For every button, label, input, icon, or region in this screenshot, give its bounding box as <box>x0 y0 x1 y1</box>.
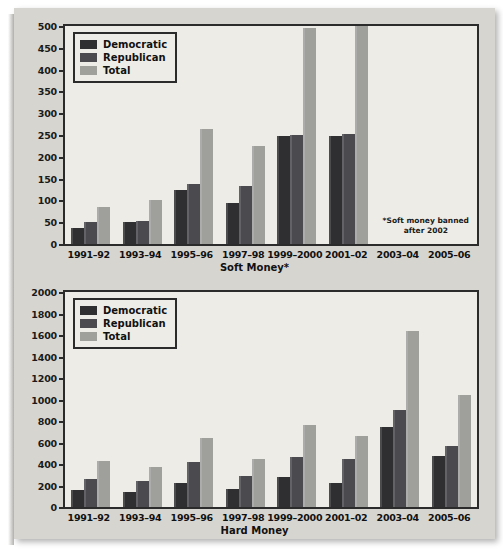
x-axis-tick-label: 2003–04 <box>377 512 419 523</box>
y-axis-tick-label: 300 <box>38 108 57 119</box>
bar-republican <box>136 221 149 244</box>
legend-label-total: Total <box>103 66 130 76</box>
bar-group <box>220 292 272 507</box>
y-axis-tick-label: 1400 <box>31 351 57 362</box>
y-axis-tick-label: 400 <box>38 64 57 75</box>
bar-democratic <box>329 136 342 244</box>
legend-row-republican: Republican <box>80 317 167 330</box>
x-axis-tick-label: 2005–06 <box>428 512 470 523</box>
x-axis-tick-label: 1995–96 <box>171 512 213 523</box>
legend-swatch-republican <box>80 53 97 62</box>
figure-paper: 050100150200250300350400450500 Democrati… <box>14 8 495 539</box>
legend-label-democratic: Democratic <box>103 306 167 316</box>
plot-area-hard-money: 0200400600800100012001400160018002000 De… <box>63 290 479 509</box>
chart-hard-money: 0200400600800100012001400160018002000 De… <box>14 276 495 539</box>
bar-total <box>355 26 368 244</box>
chart-soft-money: 050100150200250300350400450500 Democrati… <box>14 10 495 276</box>
bar-total <box>458 395 471 507</box>
y-axis-tick-label: 200 <box>38 480 57 491</box>
footnote-line-1: *Soft money banned <box>383 216 469 226</box>
bar-group <box>271 292 323 507</box>
x-axis-tick-label: 1997–98 <box>222 512 264 523</box>
bar-total <box>200 438 213 507</box>
legend-row-democratic: Democratic <box>80 304 167 317</box>
legend-swatch-republican <box>80 319 97 328</box>
bar-republican <box>84 222 97 244</box>
bar-democratic <box>226 203 239 244</box>
bar-total <box>406 331 419 507</box>
y-axis-tick-label: 50 <box>44 217 57 228</box>
legend-label-total: Total <box>103 332 130 342</box>
bar-total <box>97 461 110 507</box>
legend-hard-money: Democratic Republican Total <box>73 298 177 349</box>
legend-label-republican: Republican <box>103 53 166 63</box>
legend-soft-money: Democratic Republican Total <box>73 32 177 83</box>
bar-group <box>323 292 375 507</box>
bar-republican <box>239 186 252 244</box>
bar-republican <box>342 459 355 507</box>
axis-title-hard-money: Hard Money <box>14 525 495 536</box>
x-axis-tick-label: 2001–02 <box>325 512 367 523</box>
bar-democratic <box>277 477 290 507</box>
bar-republican <box>136 481 149 507</box>
bar-democratic <box>277 136 290 244</box>
bar-total <box>303 425 316 507</box>
bar-total <box>97 207 110 244</box>
figure-root: 050100150200250300350400450500 Democrati… <box>0 0 503 549</box>
y-axis-tick-label: 250 <box>38 130 57 141</box>
bar-democratic <box>226 489 239 507</box>
y-axis-tick-label: 1600 <box>31 330 57 341</box>
bar-democratic <box>174 190 187 244</box>
footnote-soft-money: *Soft money banned after 2002 <box>383 216 469 236</box>
bar-group <box>220 26 272 244</box>
bar-group <box>374 292 426 507</box>
legend-row-democratic: Democratic <box>80 38 167 51</box>
x-axis-tick-label: 1991–92 <box>68 512 110 523</box>
bar-total <box>149 200 162 244</box>
bar-republican <box>393 410 406 507</box>
legend-row-republican: Republican <box>80 51 167 64</box>
legend-swatch-total <box>80 66 97 75</box>
y-axis-tick-label: 0 <box>51 239 57 250</box>
x-axis-tick-label: 2005–06 <box>428 249 470 260</box>
y-axis-tick-label: 500 <box>38 21 57 32</box>
bar-republican <box>187 184 200 244</box>
bar-group <box>426 26 478 244</box>
bar-democratic <box>174 483 187 507</box>
bar-total <box>252 146 265 244</box>
y-axis-tick-label: 0 <box>51 502 57 513</box>
x-axis-tick-label: 2003–04 <box>377 249 419 260</box>
bar-total <box>252 459 265 507</box>
x-axis-tick-label: 2001–02 <box>325 249 367 260</box>
y-axis-tick-label: 100 <box>38 195 57 206</box>
y-axis-tick-label: 150 <box>38 173 57 184</box>
bar-group <box>374 26 426 244</box>
bar-group <box>426 292 478 507</box>
bar-republican <box>84 479 97 507</box>
x-axis-tick-label: 1999–2000 <box>267 249 322 260</box>
bar-democratic <box>123 222 136 244</box>
legend-row-total: Total <box>80 64 167 77</box>
bar-democratic <box>329 483 342 507</box>
bar-republican <box>187 462 200 507</box>
x-axis-tick-label: 1993–94 <box>119 512 161 523</box>
legend-swatch-democratic <box>80 306 97 315</box>
legend-label-democratic: Democratic <box>103 40 167 50</box>
bar-group <box>323 26 375 244</box>
x-axis-tick-label: 1999–2000 <box>267 512 322 523</box>
y-axis-tick-label: 800 <box>38 416 57 427</box>
bar-republican <box>342 134 355 244</box>
x-axis-tick-label: 1993–94 <box>119 249 161 260</box>
legend-label-republican: Republican <box>103 319 166 329</box>
axis-title-soft-money: Soft Money* <box>14 262 495 273</box>
y-axis-tick-label: 2000 <box>31 287 57 298</box>
y-axis-tick-label: 200 <box>38 151 57 162</box>
legend-swatch-total <box>80 332 97 341</box>
bar-democratic <box>432 456 445 507</box>
y-axis-tick-label: 450 <box>38 42 57 53</box>
bar-total <box>303 28 316 244</box>
bar-democratic <box>123 492 136 507</box>
y-axis-tick-label: 1800 <box>31 308 57 319</box>
x-axis-tick-label: 1997–98 <box>222 249 264 260</box>
x-axis-tick-label: 1991–92 <box>68 249 110 260</box>
